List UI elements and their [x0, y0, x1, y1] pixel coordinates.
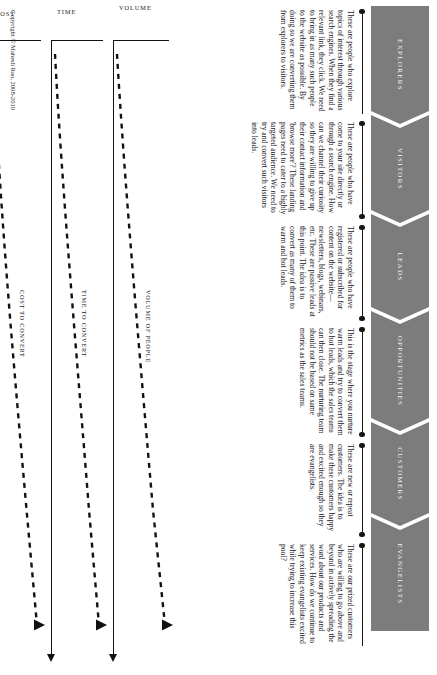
funnel-stage-visitors[interactable]: VISITORS: [371, 115, 429, 223]
stage-description-customers: These are new or repeat customers. The i…: [307, 444, 355, 536]
stage-leader-visitors: [362, 122, 363, 218]
funnel-stage-label: EVANGELISTS: [396, 544, 404, 605]
stage-description-visitors: These are people who have come to your s…: [249, 122, 355, 219]
rotated-figure-canvas: EXPLORERS VISITORS LEADS OPPORTUNITIES C…: [0, 0, 437, 675]
stage-description-evangelists: These are our prized customers who are w…: [278, 544, 355, 646]
funnel-stage-label: VISITORS: [396, 148, 404, 190]
stage-description-opportunities: This is the stage where you nurture warm…: [297, 328, 355, 436]
funnel-stage-label: OPPORTUNITIES: [396, 336, 404, 407]
chart-curve-time: [51, 40, 103, 658]
funnel-stage-leads[interactable]: LEADS: [371, 214, 429, 320]
funnel-stage-evangelists[interactable]: EVANGELISTS: [371, 517, 429, 631]
chart-y-axis-label: TIME: [57, 8, 76, 15]
stage-description-explorers: These are people who explore topics of i…: [278, 10, 355, 114]
chart-curve-volume: [113, 40, 169, 658]
funnel-stage-opportunities[interactable]: OPPORTUNITIES: [371, 311, 429, 431]
chart-cost-to-convert: COST COST TO CONVERT: [0, 40, 41, 658]
stage-leader-leads: [362, 226, 363, 320]
chart-volume-of-people: VOLUME VOLUME OF PEOPLE: [113, 40, 169, 658]
chart-y-axis-label: VOLUME: [119, 4, 152, 11]
stage-leader-customers: [362, 444, 363, 536]
stage-leader-evangelists: [362, 544, 363, 646]
funnel-stage-explorers[interactable]: EXPLORERS: [371, 6, 429, 124]
funnel-chevron-bar: EXPLORERS VISITORS LEADS OPPORTUNITIES C…: [371, 6, 429, 668]
chart-time-to-convert: TIME TIME TO CONVERT: [51, 40, 103, 658]
stage-leader-explorers: [362, 10, 363, 114]
funnel-stage-label: CUSTOMERS: [396, 447, 404, 501]
chart-curve-label-volume: VOLUME OF PEOPLE: [145, 290, 152, 363]
funnel-stage-label: LEADS: [396, 252, 404, 281]
chart-curve-label-time: TIME TO CONVERT: [81, 290, 88, 357]
funnel-stage-label: EXPLORERS: [396, 39, 404, 91]
copyright-notice: Copyright © Mahesh Rao, 2008-2010: [10, 10, 17, 110]
chart-curve-label-cost: COST TO CONVERT: [19, 290, 26, 358]
figure-page: EXPLORERS VISITORS LEADS OPPORTUNITIES C…: [0, 0, 437, 675]
funnel-stage-customers[interactable]: CUSTOMERS: [371, 422, 429, 526]
stage-description-leads: These are people who have registered or …: [278, 226, 355, 321]
stage-leader-opportunities: [362, 328, 363, 436]
